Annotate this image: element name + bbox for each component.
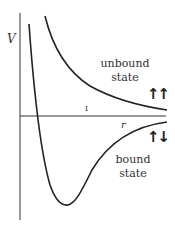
unbound-line1: unbound	[100, 58, 150, 69]
potential-diagram: V r ı unbound state ↑↑ bound state ↑↓	[0, 0, 175, 227]
small-mark: ı	[85, 103, 88, 114]
bound-line1: bound	[113, 154, 153, 165]
unbound-state-label: unbound state	[100, 58, 150, 83]
v-axis-label: V	[7, 34, 16, 45]
bound-state-label: bound state	[113, 154, 153, 179]
antiparallel-spins-icon: ↑↓	[147, 130, 168, 145]
bound-line2: state	[113, 168, 153, 179]
r-axis-label: r	[121, 119, 126, 130]
unbound-line2: state	[100, 72, 150, 83]
parallel-spins-icon: ↑↑	[147, 87, 168, 102]
